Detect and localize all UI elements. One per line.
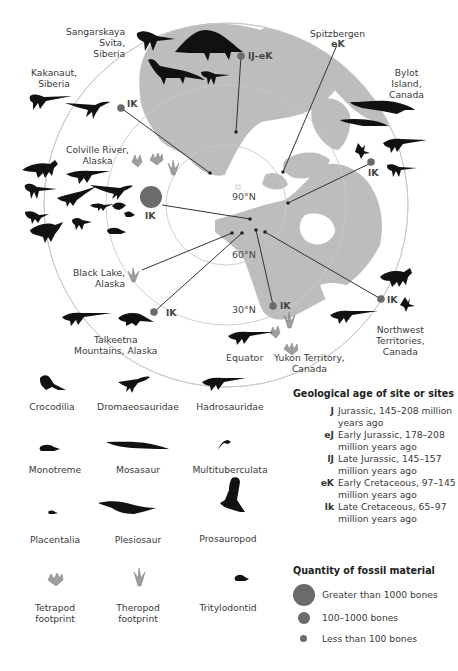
site-label-bylot: BylotIsland,Canada [389, 67, 424, 100]
marker-colville [140, 186, 162, 208]
marker-yukon [269, 302, 277, 310]
crocodilia-icon [40, 375, 66, 390]
age-code-bylot: lK [368, 167, 379, 178]
mosasaur-icon [106, 442, 169, 449]
age-code-spitzbergen: eK [331, 38, 345, 49]
quantity-legend-heading: Quantity of fossil material [293, 565, 435, 576]
plesiosaur-icon [98, 501, 156, 514]
site-label-black-lake: Black Lake,Alaska [73, 267, 125, 289]
lat-label-90: 90°N [232, 191, 256, 202]
age-code-kakanaut: lK [127, 98, 138, 109]
legend-item-mosasaur: Mosasaur [88, 464, 188, 475]
tritylodontid-icon [235, 575, 249, 581]
tetrapod-footprint-icon [48, 573, 63, 586]
marker-kakanaut [117, 104, 125, 112]
age-code-yukon: lK [280, 300, 291, 311]
site-label-colville: Colville River,Alaska [66, 144, 129, 166]
legend-item-multituberculata: Multituberculata [180, 464, 280, 475]
bird-silhouette [400, 297, 415, 312]
age-legend-item-lk: lk Late Cretaceous, 65–97million years a… [338, 501, 458, 524]
marker-northwest [377, 295, 385, 303]
monotreme-icon [40, 445, 60, 451]
legend-item-crocodilia: Crocodilia [2, 401, 102, 412]
legend-item-tritylodontid: Tritylodontid [178, 602, 278, 613]
placentalia-icon [48, 511, 58, 515]
site-label-sangarskaya: SangarskayaSvita,Siberia [66, 26, 125, 59]
lat-label-equator: Equator [226, 352, 263, 363]
age-code-talkeetna: lK [166, 307, 177, 318]
legend-item-theropod-footprint: Theropodfootprint [88, 602, 188, 624]
hadrosauridae-icon [202, 378, 246, 391]
site-label-kakanaut: Kakanaut,Siberia [31, 67, 77, 89]
hadrosauridae-silhouette [30, 94, 72, 110]
marker-bylot [367, 158, 375, 166]
lat-label-30: 30°N [232, 304, 256, 315]
age-legend-item-lJ: lJ Late Jurassic, 145–157million years a… [338, 453, 458, 476]
lat-label-60: 60°N [232, 249, 256, 260]
age-legend-item-J: J Jurassic, 145–208 millionyears ago [338, 405, 458, 428]
marker-sangarskaya [237, 52, 245, 60]
theropod-footprint-icon [134, 568, 145, 586]
dromaeosauridae-icon [118, 377, 150, 393]
medium-marker-icon [298, 612, 310, 624]
age-code-colville: lK [145, 210, 156, 221]
legend-item-hadrosauridae: Hadrosauridae [180, 401, 280, 412]
age-legend-item-eK: eK Early Cretaceous, 97–145million years… [338, 477, 458, 500]
small-marker-icon [300, 635, 307, 642]
age-legend-heading: Geological age of site or sites [293, 388, 454, 399]
site-label-northwest: NorthwestTerritories,Canada [376, 324, 425, 357]
prosauropod-icon [220, 477, 245, 512]
age-code-northwest: lK [387, 294, 398, 305]
age-legend-item-eJ: eJ Early Jurassic, 178–208million years … [338, 429, 458, 452]
marker-talkeetna [150, 308, 158, 316]
multituberculata-icon [218, 440, 231, 450]
large-marker-icon [293, 584, 315, 606]
site-label-talkeetna: TalkeetnaMountains, Alaska [74, 334, 157, 356]
legend-item-prosauropod: Prosauropod [178, 533, 278, 544]
legend-item-dromaeosauridae: Dromaeosauridae [88, 401, 188, 412]
legend-item-plesiosaur: Plesiosaur [88, 534, 188, 545]
age-code-sangarskaya: lJ-eK [248, 50, 273, 61]
